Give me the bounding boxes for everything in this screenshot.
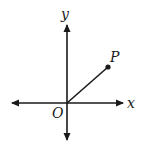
origin-label: O xyxy=(52,105,64,121)
coordinate-diagram: y x O P xyxy=(0,0,142,151)
segment-op xyxy=(67,67,108,103)
point-p xyxy=(105,64,110,69)
point-p-label: P xyxy=(109,49,120,65)
x-axis-label: x xyxy=(127,95,135,111)
y-axis-label: y xyxy=(60,6,70,22)
